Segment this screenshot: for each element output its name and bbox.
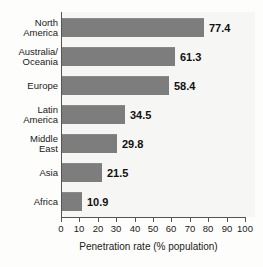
bar-row: Middle East29.8 bbox=[0, 129, 263, 158]
x-tick-mark bbox=[208, 218, 209, 222]
x-axis-title: Penetration rate (% population) bbox=[0, 241, 263, 252]
bar-value-label: 61.3 bbox=[180, 51, 201, 63]
x-tick-mark bbox=[171, 218, 172, 222]
category-label: Europe bbox=[2, 80, 58, 91]
bar-row: Asia21.5 bbox=[0, 158, 263, 187]
bar bbox=[62, 47, 175, 66]
x-tick-mark bbox=[153, 218, 154, 222]
category-label: Asia bbox=[2, 167, 58, 178]
bar-value-label: 58.4 bbox=[174, 80, 195, 92]
bar-chart: North America77.4Australia/ Oceania61.3E… bbox=[0, 0, 263, 267]
x-tick-mark bbox=[135, 218, 136, 222]
bar bbox=[62, 134, 117, 153]
bar-value-label: 34.5 bbox=[130, 109, 151, 121]
bar bbox=[62, 76, 169, 95]
bar bbox=[62, 18, 204, 37]
x-tick-mark bbox=[79, 218, 80, 222]
bar-value-label: 21.5 bbox=[107, 167, 128, 179]
category-label: North America bbox=[2, 17, 58, 38]
category-label: Australia/ Oceania bbox=[2, 46, 58, 67]
x-tick-mark bbox=[98, 218, 99, 222]
x-tick-mark bbox=[61, 218, 62, 222]
bar-row: North America77.4 bbox=[0, 13, 263, 42]
bar-row: Latin America34.5 bbox=[0, 100, 263, 129]
category-label: Africa bbox=[2, 196, 58, 207]
category-label: Latin America bbox=[2, 104, 58, 125]
bar bbox=[62, 192, 82, 211]
bar bbox=[62, 163, 102, 182]
bar-row: Europe58.4 bbox=[0, 71, 263, 100]
x-tick-mark bbox=[116, 218, 117, 222]
bar-value-label: 77.4 bbox=[209, 22, 230, 34]
bar-row: Australia/ Oceania61.3 bbox=[0, 42, 263, 71]
bar-value-label: 10.9 bbox=[87, 196, 108, 208]
category-label: Middle East bbox=[2, 133, 58, 154]
bar-value-label: 29.8 bbox=[122, 138, 143, 150]
bar bbox=[62, 105, 125, 124]
x-tick-mark bbox=[190, 218, 191, 222]
x-tick-mark bbox=[245, 218, 246, 222]
x-tick-mark bbox=[227, 218, 228, 222]
x-tick-label: 100 bbox=[233, 223, 257, 234]
bar-row: Africa10.9 bbox=[0, 187, 263, 216]
